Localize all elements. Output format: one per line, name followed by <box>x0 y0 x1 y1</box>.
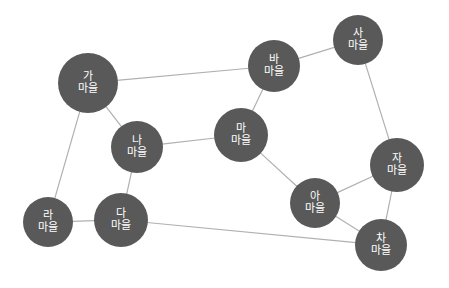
node-label-line2: 마을 <box>78 83 98 95</box>
edge-ba-ma <box>252 89 263 112</box>
graph-node-sa[interactable]: 사마을 <box>333 15 383 65</box>
graph-node-ra[interactable]: 라마을 <box>23 197 73 247</box>
node-label-line2: 마을 <box>305 203 325 215</box>
village-network-diagram: 가마을나마을다마을라마을마마을바마을사마을아마을자마을차마을 <box>0 0 449 288</box>
edge-ja-cha <box>386 190 392 220</box>
node-label-line2: 마을 <box>127 147 147 159</box>
node-label-line2: 마을 <box>264 66 284 78</box>
edge-ga-ba <box>117 68 249 80</box>
graph-node-cha[interactable]: 차마을 <box>355 219 407 271</box>
graph-node-na[interactable]: 나마을 <box>111 121 163 173</box>
edge-a-ja <box>337 176 374 193</box>
edge-ba-sa <box>298 47 335 59</box>
edge-na-ma <box>162 138 215 144</box>
graph-node-ba[interactable]: 바마을 <box>248 40 300 92</box>
graph-node-ga[interactable]: 가마을 <box>58 53 118 113</box>
edge-ga-ra <box>55 111 80 199</box>
node-label-line2: 마을 <box>111 220 131 232</box>
graph-node-ma[interactable]: 마마을 <box>214 108 268 162</box>
node-label-line2: 마을 <box>348 40 368 52</box>
edge-ra-da <box>72 221 95 222</box>
node-label-line2: 마을 <box>38 222 58 234</box>
edge-ma-a <box>260 153 297 187</box>
edge-ga-na <box>106 106 122 127</box>
edge-sa-ja <box>365 63 389 140</box>
node-label-line2: 마을 <box>371 245 391 257</box>
node-label-line2: 마을 <box>387 165 407 177</box>
graph-node-a[interactable]: 아마을 <box>290 178 340 228</box>
graph-node-ja[interactable]: 자마을 <box>370 138 424 192</box>
node-label-line2: 마을 <box>231 135 251 147</box>
graph-node-da[interactable]: 다마을 <box>94 193 148 247</box>
edge-na-da <box>127 171 132 194</box>
edge-a-cha <box>335 216 360 232</box>
